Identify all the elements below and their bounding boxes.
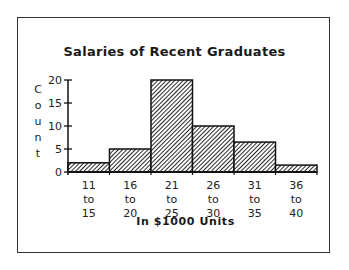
x-tick-label: 11 [82, 179, 96, 192]
histogram-bar [151, 80, 193, 172]
x-tick-label: to [249, 193, 260, 206]
x-tick-label: to [208, 193, 219, 206]
y-tick-label: 20 [48, 74, 62, 87]
x-tick-label: 26 [206, 179, 220, 192]
x-tick-label: to [125, 193, 136, 206]
histogram-bar [110, 149, 152, 172]
x-tick-label: 36 [289, 179, 303, 192]
y-tick-label: 10 [48, 120, 62, 133]
x-tick-label: 16 [123, 179, 137, 192]
x-tick-label: to [166, 193, 177, 206]
x-tick-labels: 11to1516to2021to2526to3031to3536to40 [82, 179, 304, 220]
x-tick-label: 31 [248, 179, 262, 192]
bars-group [68, 80, 317, 172]
histogram-bar [234, 142, 276, 172]
histogram-bar [276, 165, 318, 172]
y-tick-label: 15 [48, 97, 62, 110]
y-tick-label: 0 [55, 166, 62, 179]
x-axis-title: In $1000 Units [0, 215, 349, 228]
y-tick-label: 5 [55, 143, 62, 156]
histogram-bar [68, 163, 110, 172]
x-tick-label: 21 [165, 179, 179, 192]
histogram-plot: 05101520 11to1516to2021to2526to3031to353… [0, 0, 349, 270]
x-tick-label: to [83, 193, 94, 206]
x-tick-label: to [291, 193, 302, 206]
histogram-bar [193, 126, 235, 172]
